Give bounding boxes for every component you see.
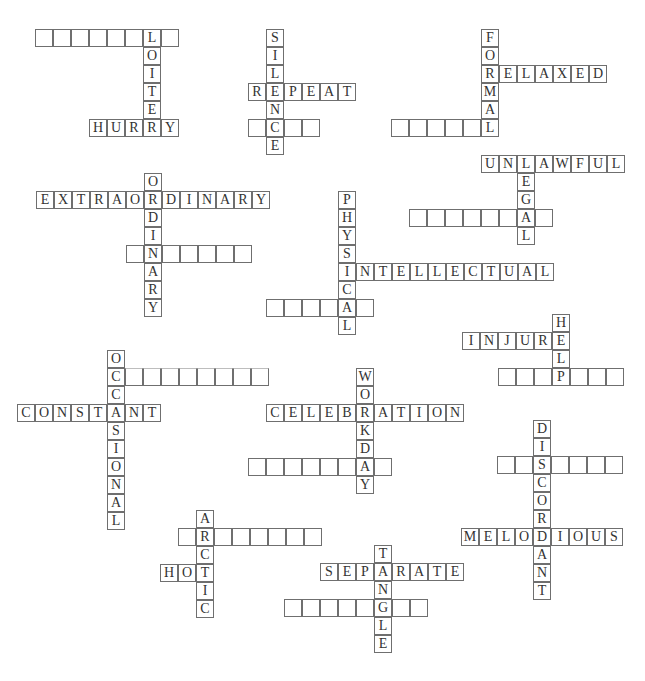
letter-cell: H <box>338 209 356 227</box>
letter-cell: H <box>160 564 178 582</box>
empty-letter-cell[interactable] <box>534 368 552 386</box>
empty-letter-cell[interactable] <box>587 456 605 474</box>
empty-letter-cell[interactable] <box>178 528 196 546</box>
empty-letter-cell[interactable] <box>516 368 534 386</box>
empty-letter-cell[interactable] <box>374 458 392 476</box>
empty-letter-cell[interactable] <box>569 456 587 474</box>
letter-cell: T <box>143 83 161 101</box>
empty-letter-cell[interactable] <box>284 299 302 317</box>
empty-letter-cell[interactable] <box>498 368 516 386</box>
empty-letter-cell[interactable] <box>320 299 338 317</box>
empty-letter-cell[interactable] <box>391 119 409 137</box>
empty-letter-cell[interactable] <box>161 29 179 47</box>
letter-cell: O <box>35 404 53 422</box>
letter-cell: C <box>17 404 35 422</box>
empty-letter-cell[interactable] <box>286 528 304 546</box>
empty-letter-cell[interactable] <box>481 209 499 227</box>
empty-letter-cell[interactable] <box>248 458 266 476</box>
empty-letter-cell[interactable] <box>71 29 89 47</box>
letter-cell: A <box>107 404 125 422</box>
empty-letter-cell[interactable] <box>606 368 624 386</box>
empty-letter-cell[interactable] <box>284 458 302 476</box>
empty-letter-cell[interactable] <box>427 209 445 227</box>
empty-letter-cell[interactable] <box>107 29 125 47</box>
empty-letter-cell[interactable] <box>445 119 463 137</box>
empty-letter-cell[interactable] <box>232 528 250 546</box>
empty-letter-cell[interactable] <box>535 209 553 227</box>
empty-letter-cell[interactable] <box>320 599 338 617</box>
empty-letter-cell[interactable] <box>463 119 481 137</box>
empty-letter-cell[interactable] <box>35 29 53 47</box>
empty-letter-cell[interactable] <box>216 245 234 263</box>
letter-cell: R <box>125 119 143 137</box>
empty-letter-cell[interactable] <box>214 528 232 546</box>
letter-cell: O <box>143 47 161 65</box>
empty-letter-cell[interactable] <box>463 209 481 227</box>
letter-cell: N <box>144 245 162 263</box>
empty-letter-cell[interactable] <box>284 119 302 137</box>
empty-letter-cell[interactable] <box>499 209 517 227</box>
empty-letter-cell[interactable] <box>410 599 428 617</box>
empty-letter-cell[interactable] <box>251 368 269 386</box>
empty-letter-cell[interactable] <box>179 368 197 386</box>
empty-letter-cell[interactable] <box>302 599 320 617</box>
empty-letter-cell[interactable] <box>445 209 463 227</box>
empty-letter-cell[interactable] <box>53 29 71 47</box>
empty-letter-cell[interactable] <box>302 299 320 317</box>
empty-letter-cell[interactable] <box>126 245 144 263</box>
empty-letter-cell[interactable] <box>302 119 320 137</box>
letter-cell: L <box>428 263 446 281</box>
letter-cell: N <box>107 476 125 494</box>
empty-letter-cell[interactable] <box>338 599 356 617</box>
letter-cell: E <box>446 563 464 581</box>
empty-letter-cell[interactable] <box>234 245 252 263</box>
empty-letter-cell[interactable] <box>588 368 606 386</box>
empty-letter-cell[interactable] <box>180 245 198 263</box>
empty-letter-cell[interactable] <box>304 528 322 546</box>
empty-letter-cell[interactable] <box>197 368 215 386</box>
empty-letter-cell[interactable] <box>248 119 266 137</box>
empty-letter-cell[interactable] <box>356 599 374 617</box>
empty-letter-cell[interactable] <box>162 245 180 263</box>
empty-letter-cell[interactable] <box>302 458 320 476</box>
letter-cell: E <box>284 404 302 422</box>
letter-cell: D <box>533 528 551 546</box>
letter-cell: U <box>589 155 607 173</box>
empty-letter-cell[interactable] <box>515 456 533 474</box>
letter-cell: N <box>446 404 464 422</box>
empty-letter-cell[interactable] <box>125 368 143 386</box>
empty-letter-cell[interactable] <box>250 528 268 546</box>
letter-cell: O <box>428 404 446 422</box>
empty-letter-cell[interactable] <box>215 368 233 386</box>
empty-letter-cell[interactable] <box>497 456 515 474</box>
empty-letter-cell[interactable] <box>409 119 427 137</box>
letter-cell: I <box>533 438 551 456</box>
empty-letter-cell[interactable] <box>143 368 161 386</box>
letter-cell: U <box>587 528 605 546</box>
empty-letter-cell[interactable] <box>551 456 569 474</box>
empty-letter-cell[interactable] <box>198 245 216 263</box>
empty-letter-cell[interactable] <box>320 458 338 476</box>
letter-cell: K <box>356 422 374 440</box>
letter-cell: M <box>481 83 499 101</box>
empty-letter-cell[interactable] <box>427 119 445 137</box>
empty-letter-cell[interactable] <box>338 458 356 476</box>
empty-letter-cell[interactable] <box>161 368 179 386</box>
empty-letter-cell[interactable] <box>89 29 107 47</box>
empty-letter-cell[interactable] <box>570 368 588 386</box>
empty-letter-cell[interactable] <box>605 456 623 474</box>
empty-letter-cell[interactable] <box>233 368 251 386</box>
empty-letter-cell[interactable] <box>266 458 284 476</box>
letter-cell: Y <box>338 227 356 245</box>
letter-cell: S <box>338 245 356 263</box>
letter-cell: N <box>356 263 374 281</box>
letter-cell: S <box>533 456 551 474</box>
empty-letter-cell[interactable] <box>409 209 427 227</box>
empty-letter-cell[interactable] <box>284 599 302 617</box>
empty-letter-cell[interactable] <box>268 528 286 546</box>
empty-letter-cell[interactable] <box>266 299 284 317</box>
empty-letter-cell[interactable] <box>356 299 374 317</box>
empty-letter-cell[interactable] <box>125 29 143 47</box>
letter-cell: U <box>516 332 534 350</box>
empty-letter-cell[interactable] <box>392 599 410 617</box>
